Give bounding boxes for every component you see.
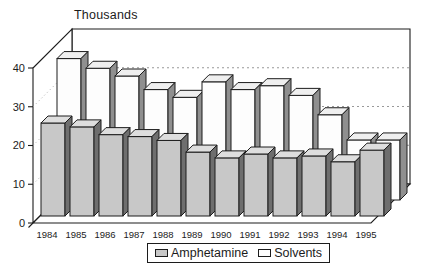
y-axis-title: Thousands <box>74 8 138 22</box>
x-label-1984: 1984 <box>36 229 57 240</box>
x-label-1990: 1990 <box>210 229 231 240</box>
legend-item-amphetamine: Amphetamine <box>155 246 248 260</box>
y-tick-label-10: 10 <box>13 178 25 190</box>
x-label-1992: 1992 <box>268 229 289 240</box>
bar-amphetamine-1995 <box>360 143 391 216</box>
x-label-1987: 1987 <box>123 229 144 240</box>
x-label-1985: 1985 <box>65 229 86 240</box>
amphetamine-swatch-icon <box>155 249 168 257</box>
x-label-1988: 1988 <box>152 229 173 240</box>
y-tick-label-30: 30 <box>13 101 25 113</box>
x-label-1994: 1994 <box>326 229 347 240</box>
legend-label-solvents: Solvents <box>274 246 322 260</box>
x-label-1993: 1993 <box>297 229 318 240</box>
bar-amphetamine-1994 <box>331 155 362 216</box>
x-label-1995: 1995 <box>355 229 376 240</box>
bar-amphetamine-1987 <box>128 130 159 216</box>
bar-amphetamine-1985 <box>70 120 101 216</box>
x-label-1991: 1991 <box>239 229 260 240</box>
y-tick-label-0: 0 <box>19 217 25 229</box>
chart-svg: 0102030401984198519861987198819891990199… <box>0 0 430 275</box>
solvents-swatch-icon <box>258 249 271 257</box>
x-label-1989: 1989 <box>181 229 202 240</box>
legend-label-amphetamine: Amphetamine <box>171 246 248 260</box>
origin-depth-tick <box>29 223 34 228</box>
bar-amphetamine-1988 <box>157 133 188 216</box>
bar-amphetamine-1990 <box>215 151 246 216</box>
chart-container: 0102030401984198519861987198819891990199… <box>0 0 430 275</box>
y-tick-label-40: 40 <box>13 62 25 74</box>
bar-amphetamine-1992 <box>273 151 304 216</box>
bar-amphetamine-1984 <box>41 116 72 216</box>
y-tick-label-20: 20 <box>13 139 25 151</box>
x-label-1986: 1986 <box>94 229 115 240</box>
legend: Amphetamine Solvents <box>147 243 330 263</box>
x-axis-labels: 1984198519861987198819891990199119921993… <box>36 229 376 240</box>
y-axis: 010203040 <box>13 62 33 229</box>
bar-amphetamine-1991 <box>244 147 275 216</box>
bar-amphetamine-1986 <box>99 128 130 216</box>
legend-item-solvents: Solvents <box>258 246 322 260</box>
bar-amphetamine-1989 <box>186 145 217 216</box>
bar-amphetamine-1993 <box>302 149 333 216</box>
